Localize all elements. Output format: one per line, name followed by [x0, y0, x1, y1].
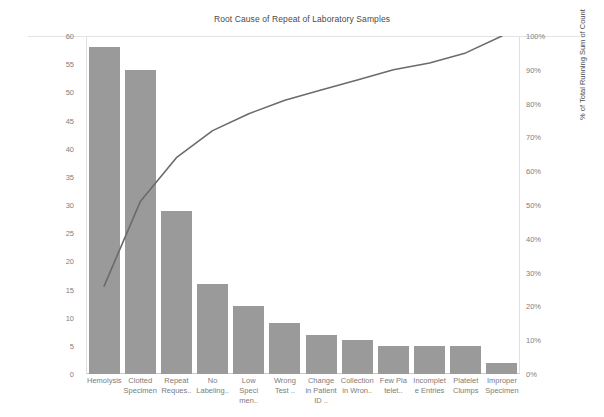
y-right-tick: 80%: [526, 99, 541, 108]
x-axis-tick-label[interactable]: Improper Specimen: [485, 376, 519, 396]
cumulative-line-svg: [86, 36, 520, 374]
y-right-tick: 50%: [526, 201, 541, 210]
y-left-tick: 30: [66, 201, 74, 210]
x-axis-tick-label[interactable]: Incomplet e Entries: [413, 376, 447, 396]
y-right-tick: 30%: [526, 268, 541, 277]
y-right-tick: 60%: [526, 167, 541, 176]
cumulative-line-series: [86, 36, 520, 374]
y-left-tick: 25: [66, 229, 74, 238]
y-left-tick: 10: [66, 313, 74, 322]
x-axis-tick-label[interactable]: Hemolysis: [87, 376, 121, 386]
pareto-chart: Root Cause of Repeat of Laboratory Sampl…: [0, 0, 604, 417]
y-left-tick: 15: [66, 285, 74, 294]
y-left-tick: 20: [66, 257, 74, 266]
y-left-tick: 55: [66, 60, 74, 69]
y-right-tick: 10%: [526, 336, 541, 345]
y-right-tick: 70%: [526, 133, 541, 142]
y-right-tick: 20%: [526, 302, 541, 311]
x-axis-tick-label[interactable]: Clotted Specimen: [123, 376, 157, 396]
x-axis-tick-label[interactable]: Platelet Clumps: [449, 376, 483, 396]
y-left-tick: 60: [66, 32, 74, 41]
x-axis-tick-label[interactable]: Repeat Reques..: [159, 376, 193, 396]
y-axis-right-title: % of Total Running Sum of Count: [578, 9, 587, 120]
x-axis-labels: HemolysisClotted SpecimenRepeat Reques..…: [86, 376, 520, 416]
y-right-tick: 90%: [526, 65, 541, 74]
y-left-tick: 35: [66, 172, 74, 181]
x-axis-tick-label[interactable]: No Labeling..: [196, 376, 230, 396]
x-axis-tick-label[interactable]: Wrong Test ..: [268, 376, 302, 396]
y-left-tick: 50: [66, 88, 74, 97]
x-axis-tick-label[interactable]: Low Speci men..: [232, 376, 266, 406]
y-axis-right-ticks: 0%10%20%30%40%50%60%70%80%90%100%: [526, 0, 586, 417]
y-right-tick: 0%: [526, 370, 537, 379]
y-right-tick: 100%: [526, 32, 545, 41]
y-axis-left-ticks: 051015202530354045505560: [0, 0, 80, 417]
y-left-tick: 0: [70, 370, 74, 379]
x-axis-tick-label[interactable]: Few Pla telet..: [376, 376, 410, 396]
y-left-tick: 45: [66, 116, 74, 125]
chart-title: Root Cause of Repeat of Laboratory Sampl…: [0, 14, 604, 24]
x-axis-tick-label[interactable]: Collection in Wron..: [340, 376, 374, 396]
y-right-tick: 40%: [526, 234, 541, 243]
x-axis-tick-label[interactable]: Change in Patient ID ..: [304, 376, 338, 406]
y-left-tick: 5: [70, 341, 74, 350]
y-left-tick: 40: [66, 144, 74, 153]
